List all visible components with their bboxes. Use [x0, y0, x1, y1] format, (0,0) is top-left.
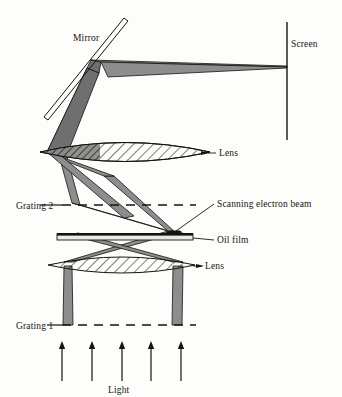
label-screen: Screen	[291, 39, 318, 49]
label-mirror: Mirror	[73, 33, 100, 43]
label-oil-film: Oil film	[217, 235, 249, 245]
label-light: Light	[108, 385, 130, 395]
label-grating-2: Grating 2	[16, 201, 54, 211]
label-lens-lower: Lens	[205, 261, 224, 271]
label-lens-upper: Lens	[219, 148, 238, 158]
optical-diagram-figure: Mirror Screen Lens Lens Grating 2 Gratin…	[0, 0, 342, 397]
label-grating-1: Grating 1	[16, 321, 54, 331]
label-scanning-electron-beam: Scanning electron beam	[217, 199, 312, 209]
